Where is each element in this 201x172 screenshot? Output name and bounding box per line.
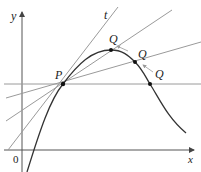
point-p-label: P: [55, 69, 62, 81]
diagram-svg: [0, 0, 201, 172]
approach-arrow-1: [117, 46, 128, 51]
point-q2: [133, 60, 137, 64]
point-q1-label: Q: [109, 33, 118, 45]
x-axis-label: x: [188, 154, 193, 165]
y-axis-label: y: [11, 10, 16, 22]
tangent-label: t: [104, 9, 107, 21]
point-q3: [148, 82, 152, 86]
secant-tangent-diagram: y x 0 P Q Q Q t: [0, 0, 201, 172]
secant-line-q1: [6, 10, 172, 121]
point-q1: [109, 48, 113, 52]
origin-label: 0: [13, 154, 19, 165]
tangent-line: [8, 7, 118, 150]
approach-arrow-2: [143, 65, 153, 72]
point-p: [61, 82, 65, 86]
point-q3-label: Q: [155, 68, 164, 80]
point-q2-label: Q: [138, 48, 147, 60]
